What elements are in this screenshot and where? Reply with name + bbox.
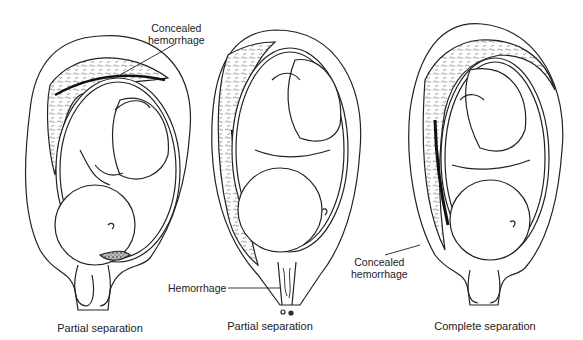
panel-2-hemorrhage-label: Hemorrhage bbox=[168, 282, 226, 294]
panel-2-caption: Partial separation bbox=[210, 320, 330, 332]
panel-1-caption: Partial separation bbox=[40, 322, 160, 334]
diagram-artwork bbox=[0, 0, 583, 340]
abruption-diagram: Concealed hemorrhage Hemorrhage Conceale… bbox=[0, 0, 583, 340]
panel-3-concealed-hemorrhage-label: Concealed hemorrhage bbox=[351, 256, 408, 280]
label-line-2: hemorrhage bbox=[351, 268, 408, 280]
panel-3-illustration bbox=[385, 24, 563, 305]
label-line-1: Concealed bbox=[148, 22, 205, 34]
label-line-1: Concealed bbox=[351, 256, 408, 268]
label-line-2: hemorrhage bbox=[148, 34, 205, 46]
panel-3-caption: Complete separation bbox=[420, 320, 550, 332]
panel-1-illustration bbox=[26, 36, 191, 310]
panel-2-illustration bbox=[212, 30, 361, 315]
label-line-1: Hemorrhage bbox=[168, 282, 226, 294]
panel-1-concealed-hemorrhage-label: Concealed hemorrhage bbox=[148, 22, 205, 46]
